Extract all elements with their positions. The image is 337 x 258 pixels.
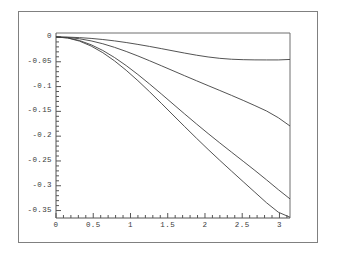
y-axis-tick-label: -0.1 [32,82,52,90]
data-curve-curve-1 [56,37,290,60]
y-axis-tick-label: -0.3 [32,181,52,189]
plot-figure: 0-0.05-0.1-0.15-0.2-0.25-0.3-0.35 00.511… [0,0,337,258]
data-curve-curve-2 [56,37,290,126]
y-axis-tick-label: -0.25 [27,156,52,164]
y-axis-tick-label: -0.2 [32,131,52,139]
x-axis-tick-label: 1.5 [154,221,182,229]
data-curves [56,37,290,217]
y-axis-tick-label: -0.15 [27,106,52,114]
x-axis-tick-label: 3 [265,221,293,229]
plot-axes [56,33,290,218]
x-axis-tick-label: 0 [42,221,70,229]
y-axis-tick-label: 0 [47,32,52,40]
axis-tick-marks [56,37,287,218]
x-axis-tick-label: 2.5 [228,221,256,229]
data-curve-curve-3 [56,37,290,199]
plot-frame-lines [56,33,290,218]
y-axis-tick-label: -0.05 [27,57,52,65]
y-axis-tick-label: -0.35 [27,206,52,214]
data-curve-curve-4 [56,37,290,217]
x-axis-tick-label: 2 [191,221,219,229]
x-axis-tick-label: 1 [116,221,144,229]
x-axis-tick-label: 0.5 [79,221,107,229]
